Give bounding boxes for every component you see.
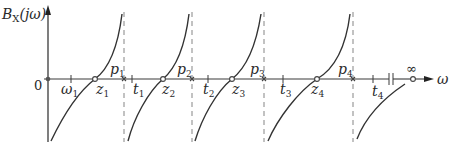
label-z2: z2 xyxy=(161,81,175,99)
label-p2: p2 xyxy=(177,61,192,79)
curve-branch-3 xyxy=(195,14,261,141)
reactance-diagram: BX(jω) 0 ω1 t1 t2 t3 t4 z1 z2 z3 z4 p1 p… xyxy=(0,0,453,150)
origin-label: 0 xyxy=(34,78,42,93)
label-t2: t2 xyxy=(203,81,214,99)
label-z3: z3 xyxy=(231,81,245,99)
x-axis-label: ω xyxy=(437,71,449,87)
label-t3: t3 xyxy=(280,81,292,99)
curve-branch-1 xyxy=(51,14,122,141)
label-p4: p4 xyxy=(338,61,353,79)
x-axis-arrow-icon xyxy=(424,76,434,82)
label-p3: p3 xyxy=(250,61,265,79)
curve-branch-2 xyxy=(128,14,189,141)
label-t4: t4 xyxy=(372,83,384,101)
origin-point xyxy=(46,77,51,82)
label-omega1: ω1 xyxy=(61,81,78,99)
label-t1: t1 xyxy=(133,81,144,99)
label-p1: p1 xyxy=(110,61,125,79)
y-axis-label: BX(jω) xyxy=(1,6,46,24)
zero-infinity xyxy=(411,77,416,82)
infinity-label: ∞ xyxy=(406,61,417,76)
label-z4: z4 xyxy=(310,81,324,99)
curve-branch-4 xyxy=(268,14,350,141)
label-z1: z1 xyxy=(95,81,109,99)
